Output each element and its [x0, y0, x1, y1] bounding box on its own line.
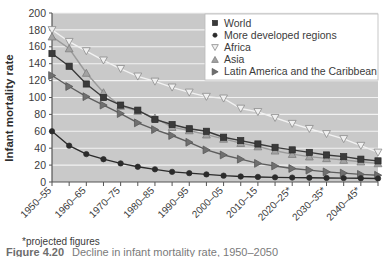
y-axis-tick-label: 180 — [28, 24, 46, 36]
data-marker-square — [306, 149, 312, 155]
data-marker-square — [358, 156, 364, 162]
data-marker-square — [169, 121, 175, 127]
data-marker-square — [375, 158, 381, 164]
x-axis-tick-label: 1990–95 — [155, 184, 191, 220]
x-axis-tick-labels-group: 1950–551960–651970–751980–851990–952000–… — [18, 184, 362, 222]
data-marker-square — [203, 128, 209, 134]
data-marker-circle — [118, 161, 123, 166]
figure-caption-text: Decline in infant mortality rate, 1950–2… — [72, 246, 278, 257]
data-marker-square — [323, 152, 329, 158]
data-marker-square — [100, 94, 106, 100]
data-marker-circle — [341, 175, 346, 180]
data-marker-circle — [187, 170, 192, 175]
data-marker-square — [118, 102, 124, 108]
y-axis-tick-label: 40 — [34, 142, 46, 154]
y-axis-tick-label: 160 — [28, 40, 46, 52]
data-marker-square — [66, 63, 72, 69]
x-axis-tick-label: 2040–45* — [324, 185, 362, 223]
y-axis-tick-label: 20 — [34, 159, 46, 171]
y-axis-tick-label: 120 — [28, 74, 46, 86]
x-axis-tick-label: 2030–35* — [290, 185, 328, 223]
legend-label: Asia — [224, 53, 245, 65]
legend-entry[interactable]: More developed regions — [213, 29, 337, 41]
data-marker-circle — [238, 174, 243, 179]
x-axis-tick-label: 1960–65 — [52, 184, 88, 220]
data-marker-square — [238, 137, 244, 143]
data-marker-square — [49, 50, 55, 56]
data-marker-square — [272, 144, 278, 150]
data-marker-circle — [324, 175, 329, 180]
x-axis-tick-label: 1980–85 — [121, 184, 157, 220]
x-axis-tick-label: 1950–55 — [18, 184, 54, 220]
data-marker-circle — [204, 172, 209, 177]
infant-mortality-line-chart: 020406080100120140160180200 1950–551960–… — [0, 0, 383, 257]
data-marker-circle — [169, 169, 174, 174]
x-axis-tick-label: 2010–15 — [224, 184, 260, 220]
y-axis-tick-label: 80 — [34, 108, 46, 120]
legend: WorldMore developed regionsAfricaAsiaLat… — [205, 14, 378, 80]
data-marker-circle — [101, 156, 106, 161]
data-marker-square — [220, 134, 226, 140]
data-marker-circle — [152, 167, 157, 172]
data-marker-circle — [307, 175, 312, 180]
y-axis-title: Infant mortality rate — [3, 54, 15, 161]
data-marker-circle — [49, 129, 54, 134]
data-marker-square — [289, 147, 295, 153]
data-marker-square — [135, 107, 141, 113]
legend-entry[interactable]: Latin America and the Caribbean — [212, 65, 377, 77]
data-marker-circle — [290, 175, 295, 180]
data-marker-square — [341, 154, 347, 160]
x-axis-ticks-group — [52, 182, 378, 186]
x-axis-tick-label: 1970–75 — [87, 184, 123, 220]
data-marker-square — [152, 116, 158, 122]
y-axis-tick-label: 200 — [28, 7, 46, 19]
legend-label: More developed regions — [224, 29, 337, 41]
x-axis-tick-label: 2000–05 — [190, 184, 226, 220]
data-marker-circle — [221, 173, 226, 178]
data-marker-square — [186, 126, 192, 132]
y-axis-tick-label: 60 — [34, 125, 46, 137]
legend-label: Africa — [224, 41, 251, 53]
y-axis-tick-label: 140 — [28, 57, 46, 69]
data-marker-square — [213, 21, 218, 26]
data-marker-circle — [84, 151, 89, 156]
legend-label: Latin America and the Caribbean — [224, 65, 377, 77]
data-marker-square — [255, 141, 261, 147]
data-marker-circle — [213, 33, 217, 37]
data-marker-circle — [66, 143, 71, 148]
data-marker-circle — [135, 164, 140, 169]
data-marker-square — [83, 81, 89, 87]
y-axis-tick-labels-group: 020406080100120140160180200 — [28, 7, 46, 188]
data-marker-circle — [375, 176, 380, 181]
data-marker-circle — [272, 175, 277, 180]
data-marker-circle — [358, 176, 363, 181]
y-axis-tick-label: 100 — [28, 91, 46, 103]
figure-container: 020406080100120140160180200 1950–551960–… — [0, 0, 383, 257]
legend-label: World — [224, 17, 251, 29]
figure-caption-label: Figure 4.20 — [6, 246, 64, 257]
data-marker-circle — [255, 174, 260, 179]
x-axis-tick-label: 2020–25* — [256, 185, 294, 223]
